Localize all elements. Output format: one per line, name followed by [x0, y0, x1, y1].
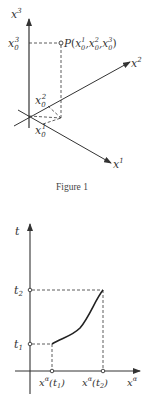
x3-axis-label: x3	[11, 7, 22, 21]
x2-axis-label: x2	[131, 56, 142, 70]
figure-2: t t2 t1 xα(t1) xα(t2) xα	[14, 224, 140, 394]
t-axis-label: t	[15, 225, 20, 238]
figures-canvas: x3 x2 x1 x03 x02 x01 P(x01,x02,x03) Figu…	[0, 0, 151, 407]
figure-1: x3 x2 x1 x03 x02 x01 P(x01,x02,x03) Figu…	[8, 7, 142, 192]
t2-label: t2	[14, 284, 23, 298]
dashed-origin-to-foot	[29, 116, 61, 118]
t1-label: t1	[14, 338, 23, 352]
x-alpha-t1-label: xα(t1)	[39, 375, 65, 390]
x-alpha-t2-label: xα(t2)	[82, 375, 108, 390]
x1-axis-label: x1	[113, 157, 124, 171]
point-p-label: P(x01,x02,x03)	[63, 36, 117, 52]
x0-3-label: x03	[8, 36, 20, 52]
x1-axis	[18, 110, 111, 163]
x0-1-label: x01	[35, 123, 46, 139]
dashed-x2-to-foot	[48, 106, 61, 118]
t2-tick	[28, 288, 32, 292]
x-t2-tick	[101, 369, 105, 373]
figure-1-caption: Figure 1	[56, 182, 88, 192]
t1-tick	[28, 342, 32, 346]
point-p	[59, 41, 63, 45]
world-line-curve	[52, 290, 103, 344]
x-alpha-axis-label: xα	[127, 375, 138, 388]
x0-2-label: x02	[35, 93, 47, 109]
x-t1-tick	[50, 369, 54, 373]
